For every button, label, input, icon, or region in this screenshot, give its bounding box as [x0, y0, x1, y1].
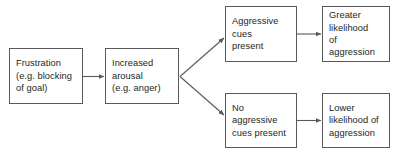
arrow-arousal-to-no-cues	[180, 77, 224, 116]
node-increased-arousal-label: Increased arousal (e.g. anger)	[112, 57, 172, 94]
arrow-arousal-to-cues-present	[180, 38, 224, 77]
node-frustration-label: Frustration (e.g. blocking of goal)	[16, 57, 76, 94]
node-no-aggressive-cues-present-label: No aggressive cues present	[232, 102, 290, 139]
node-aggressive-cues-present-label: Aggressive cues present	[232, 15, 290, 52]
node-aggressive-cues-present: Aggressive cues present	[225, 6, 297, 62]
node-lower-likelihood-of-aggression: Lower likelihood of aggression	[322, 93, 390, 148]
node-increased-arousal: Increased arousal (e.g. anger)	[105, 48, 179, 104]
node-lower-likelihood-label: Lower likelihood of aggression	[329, 102, 383, 139]
flowchart-diagram: Frustration (e.g. blocking of goal) Incr…	[0, 0, 396, 158]
node-greater-likelihood-of-aggression: Greater likelihood of aggression	[322, 6, 390, 62]
node-no-aggressive-cues-present: No aggressive cues present	[225, 93, 297, 148]
node-greater-likelihood-label: Greater likelihood of aggression	[329, 9, 383, 59]
node-frustration: Frustration (e.g. blocking of goal)	[9, 48, 83, 104]
